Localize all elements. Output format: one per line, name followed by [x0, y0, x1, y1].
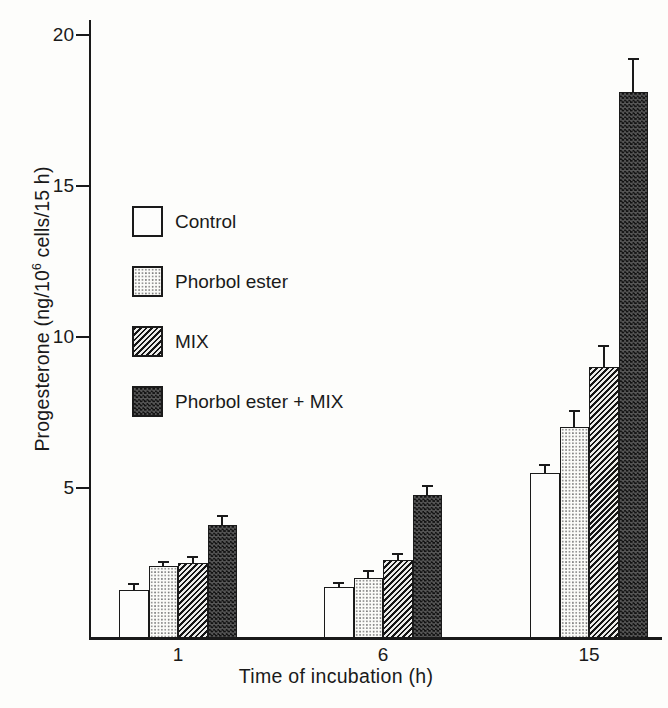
error-cap-mix-t15 — [598, 345, 609, 347]
legend-label-phorbol-ester-mix: Phorbol ester + MIX — [175, 391, 343, 413]
y-axis-line — [89, 20, 91, 639]
error-cap-phorbol-ester-t15 — [569, 410, 580, 412]
y-tick-15 — [76, 185, 91, 187]
error-cap-phorbol-ester-mix-t1 — [217, 515, 228, 517]
legend-label-mix: MIX — [175, 331, 209, 353]
y-axis-title-prefix: Progesterone (ng/10 — [31, 270, 53, 452]
bar-phorbol-ester-t1 — [149, 566, 179, 638]
error-cap-control-t1 — [128, 583, 139, 585]
bar-control-t6 — [324, 587, 354, 638]
bar-control-t15 — [530, 473, 560, 639]
y-axis-title: Progesterone (ng/106 cells/15 h) — [30, 166, 54, 451]
bar-phorbol-ester-t6 — [354, 578, 384, 638]
legend-label-control: Control — [175, 211, 236, 233]
error-bar-phorbol-ester-mix-t15 — [632, 59, 634, 92]
bar-mix-t15 — [589, 367, 619, 639]
x-tick-label-6: 6 — [343, 644, 423, 666]
y-tick-label-5: 5 — [28, 476, 74, 500]
bar-control-t1 — [119, 590, 149, 638]
error-cap-phorbol-ester-mix-t15 — [628, 58, 639, 60]
y-tick-5 — [76, 487, 91, 489]
error-cap-phorbol-ester-t6 — [363, 570, 374, 572]
bar-phorbol-ester-t15 — [560, 427, 590, 638]
x-axis-title: Time of incubation (h) — [239, 665, 433, 688]
error-bar-mix-t15 — [603, 346, 605, 367]
error-cap-phorbol-ester-t1 — [158, 561, 169, 563]
legend-swatch-control-icon — [132, 206, 163, 237]
legend-label-phorbol-ester: Phorbol ester — [175, 271, 288, 293]
y-tick-label-15: 15 — [28, 174, 74, 198]
error-cap-control-t6 — [333, 582, 344, 584]
error-cap-mix-t6 — [392, 553, 403, 555]
legend-swatch-phorbol-ester-icon — [132, 266, 163, 297]
error-bar-phorbol-ester-mix-t1 — [221, 516, 223, 525]
y-tick-20 — [76, 34, 91, 36]
y-tick-label-20: 20 — [28, 23, 74, 47]
bar-mix-t1 — [178, 563, 208, 638]
legend-swatch-mix-icon — [132, 326, 163, 357]
y-tick-label-10: 10 — [28, 325, 74, 349]
x-tick-label-1: 1 — [138, 644, 218, 666]
bar-phorbol-ester-mix-t6 — [413, 495, 443, 638]
bar-mix-t6 — [383, 560, 413, 638]
progesterone-bar-chart: Progesterone (ng/106 cells/15 h) 5101520… — [0, 0, 668, 708]
error-cap-phorbol-ester-mix-t6 — [422, 485, 433, 487]
x-tick-label-15: 15 — [549, 644, 629, 666]
y-tick-10 — [76, 336, 91, 338]
bar-phorbol-ester-mix-t15 — [619, 92, 649, 638]
y-axis-title-superscript: 6 — [30, 263, 44, 270]
error-bar-phorbol-ester-t15 — [573, 411, 575, 428]
legend-swatch-phorbol-ester-mix-icon — [132, 386, 163, 417]
error-cap-mix-t1 — [187, 556, 198, 558]
error-bar-phorbol-ester-mix-t6 — [426, 486, 428, 495]
bar-phorbol-ester-mix-t1 — [208, 525, 238, 638]
error-cap-control-t15 — [539, 464, 550, 466]
